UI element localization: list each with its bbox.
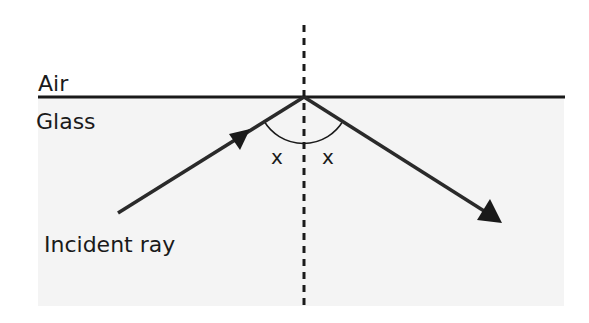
reflection-diagram: Air Glass Incident ray x x	[0, 0, 589, 323]
glass-label: Glass	[36, 109, 96, 134]
glass-region	[38, 98, 564, 306]
angle-label-left: x	[271, 145, 283, 169]
air-label: Air	[38, 71, 69, 96]
incident-ray-label: Incident ray	[44, 232, 175, 257]
angle-label-right: x	[322, 145, 334, 169]
